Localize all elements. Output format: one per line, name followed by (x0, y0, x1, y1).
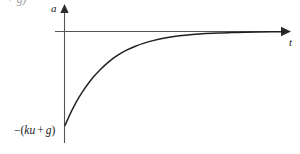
figure-container: a t −(ku+g) + g) (0, 0, 300, 154)
clipped-top-fragment: + g) (6, 0, 26, 6)
plus-sign: + (37, 124, 44, 136)
y-axis-label: a (51, 3, 57, 14)
acceleration-curve (65, 32, 285, 126)
x-axis-label: t (289, 37, 292, 48)
close-paren: ) (51, 124, 55, 136)
ku-term: ku (24, 124, 35, 136)
y-intercept-label: −(ku+g) (14, 125, 55, 137)
y-axis-arrowhead (60, 4, 68, 13)
y-axis-group (60, 4, 68, 143)
